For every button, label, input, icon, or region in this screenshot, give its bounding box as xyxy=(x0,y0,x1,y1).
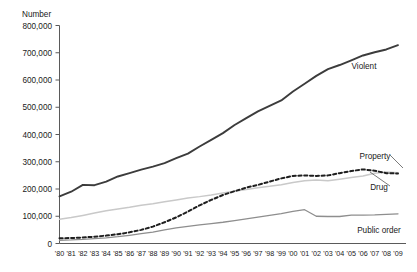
x-tick-label: '07 xyxy=(370,249,379,258)
series-line-violent xyxy=(60,45,399,196)
y-tick-label: 0 xyxy=(47,240,52,249)
y-tick-label: 500,000 xyxy=(22,103,52,112)
series-leader-line xyxy=(390,155,403,168)
x-tick-label: '90 xyxy=(172,249,181,258)
x-tick-label: '86 xyxy=(125,249,134,258)
x-tick-label: '89 xyxy=(160,249,169,258)
x-tick-label: '00 xyxy=(288,249,297,258)
x-tick-label: '82 xyxy=(78,249,87,258)
line-chart: Number 0100,000200,000300,000400,000500,… xyxy=(0,0,417,272)
series-label-property: Property xyxy=(360,152,392,161)
x-tick-label: '98 xyxy=(265,249,274,258)
x-tick-label: '99 xyxy=(277,249,286,258)
y-tick-label: 300,000 xyxy=(22,158,52,167)
x-tick-label: '95 xyxy=(230,249,239,258)
x-tick-label: '81 xyxy=(66,249,75,258)
x-tick-label: '05 xyxy=(347,249,356,258)
series-label-public-order: Public order xyxy=(357,226,401,235)
y-tick-label: 200,000 xyxy=(22,185,52,194)
y-tick-label: 100,000 xyxy=(22,212,52,221)
x-tick-label: '08 xyxy=(382,249,391,258)
y-axis-tick-labels: 0100,000200,000300,000400,000500,000600,… xyxy=(22,22,52,249)
y-tick-label: 600,000 xyxy=(22,76,52,85)
x-axis-tick-labels: '80'81'82'83'84'85'86'87'88'89'90'91'92'… xyxy=(55,249,403,258)
series-label-group: ViolentPropertyDrugPublic order xyxy=(352,62,402,235)
x-tick-label: '96 xyxy=(242,249,251,258)
y-axis-tick-marks xyxy=(56,26,60,244)
x-tick-label: '03 xyxy=(323,249,332,258)
x-tick-label: '83 xyxy=(90,249,99,258)
x-tick-label: '92 xyxy=(195,249,204,258)
x-tick-label: '04 xyxy=(335,249,344,258)
x-tick-label: '88 xyxy=(148,249,157,258)
chart-canvas: Number 0100,000200,000300,000400,000500,… xyxy=(0,0,417,272)
x-tick-label: '94 xyxy=(218,249,227,258)
x-tick-label: '93 xyxy=(207,249,216,258)
y-axis-title: Number xyxy=(22,10,51,19)
y-tick-label: 400,000 xyxy=(22,131,52,140)
x-tick-label: '84 xyxy=(102,249,111,258)
series-line-public-order xyxy=(60,210,399,241)
x-tick-label: '02 xyxy=(312,249,321,258)
x-tick-label: '97 xyxy=(253,249,262,258)
series-label-violent: Violent xyxy=(352,62,378,71)
data-series-group xyxy=(60,45,399,240)
x-tick-label: '01 xyxy=(300,249,309,258)
series-label-drug: Drug xyxy=(370,183,388,192)
y-tick-label: 700,000 xyxy=(22,49,52,58)
x-tick-label: '80 xyxy=(55,249,64,258)
y-tick-label: 800,000 xyxy=(22,22,52,31)
x-tick-label: '91 xyxy=(183,249,192,258)
x-tick-label: '06 xyxy=(358,249,367,258)
x-tick-label: '87 xyxy=(137,249,146,258)
x-tick-label: '85 xyxy=(113,249,122,258)
x-tick-label: '09 xyxy=(393,249,402,258)
